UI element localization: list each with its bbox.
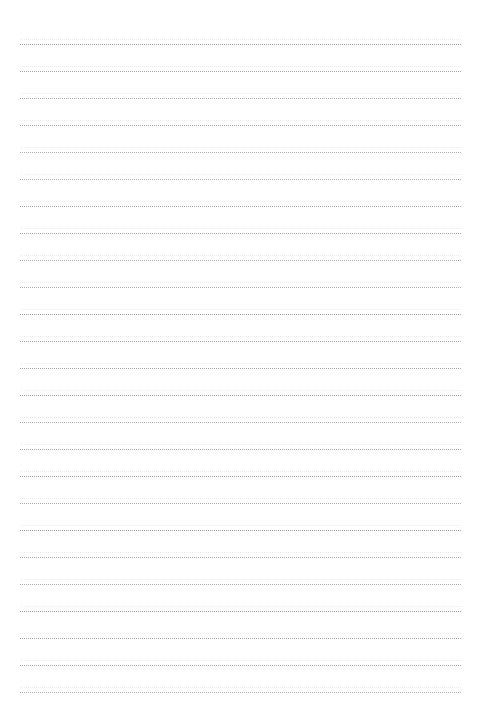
ruled-line-dots [20, 152, 461, 153]
ruled-line-ghost [20, 39, 461, 40]
ruled-line-dots [20, 368, 461, 369]
ruled-line[interactable] [20, 201, 461, 208]
ruled-line[interactable] [20, 579, 461, 586]
ruled-line-dots [20, 611, 461, 612]
ruled-line-dots [20, 638, 461, 639]
ruled-line-ghost [20, 66, 461, 67]
writing-area[interactable] [20, 0, 461, 720]
ruled-line-dots [20, 260, 461, 261]
ruled-line-dots [20, 665, 461, 666]
ruled-line[interactable] [20, 336, 461, 343]
ruled-line[interactable] [20, 471, 461, 478]
ruled-line[interactable] [20, 525, 461, 532]
ruled-line-ghost [20, 255, 461, 256]
ruled-line-ghost [20, 498, 461, 499]
ruled-line-dots [20, 557, 461, 558]
ruled-line[interactable] [20, 174, 461, 181]
ruled-line[interactable] [20, 228, 461, 235]
ruled-line[interactable] [20, 147, 461, 154]
ruled-line[interactable] [20, 282, 461, 289]
ruled-line-ghost [20, 471, 461, 472]
ruled-line-ghost [20, 147, 461, 148]
ruled-line[interactable] [20, 687, 461, 694]
ruled-line-ghost [20, 687, 461, 688]
ruled-line[interactable] [20, 390, 461, 397]
ruled-line[interactable] [20, 66, 461, 73]
ruled-line-ghost [20, 606, 461, 607]
ruled-line-dots [20, 503, 461, 504]
ruled-line[interactable] [20, 633, 461, 640]
ruled-line-ghost [20, 93, 461, 94]
ruled-line-dots [20, 98, 461, 99]
ruled-line-dots [20, 395, 461, 396]
ruled-line-ghost [20, 444, 461, 445]
ruled-line[interactable] [20, 606, 461, 613]
ruled-line[interactable] [20, 120, 461, 127]
ruled-line-dots [20, 341, 461, 342]
ruled-line[interactable] [20, 309, 461, 316]
ruled-line-dots [20, 476, 461, 477]
ruled-line-dots [20, 71, 461, 72]
ruled-line-dots [20, 206, 461, 207]
ruled-line-ghost [20, 660, 461, 661]
ruled-line-ghost [20, 363, 461, 364]
ruled-line-ghost [20, 201, 461, 202]
ruled-line-ghost [20, 228, 461, 229]
ruled-line-dots [20, 449, 461, 450]
ruled-line[interactable] [20, 255, 461, 262]
ruled-line[interactable] [20, 660, 461, 667]
ruled-line-dots [20, 44, 461, 45]
ruled-line[interactable] [20, 93, 461, 100]
ruled-line-ghost [20, 282, 461, 283]
ruled-line-dots [20, 233, 461, 234]
ruled-line-dots [20, 287, 461, 288]
ruled-line-ghost [20, 309, 461, 310]
ruled-line[interactable] [20, 498, 461, 505]
ruled-line-ghost [20, 390, 461, 391]
ruled-line[interactable] [20, 39, 461, 46]
ruled-line-dots [20, 692, 461, 693]
ruled-line-dots [20, 422, 461, 423]
ruled-line[interactable] [20, 417, 461, 424]
ruled-line[interactable] [20, 363, 461, 370]
ruled-line[interactable] [20, 552, 461, 559]
ruled-line-ghost [20, 336, 461, 337]
ruled-line-ghost [20, 174, 461, 175]
ruled-line-dots [20, 125, 461, 126]
ruled-line-dots [20, 314, 461, 315]
ruled-line-dots [20, 530, 461, 531]
ruled-line-ghost [20, 525, 461, 526]
ruled-line-dots [20, 179, 461, 180]
ruled-line-ghost [20, 633, 461, 634]
ruled-line-ghost [20, 552, 461, 553]
ruled-line-ghost [20, 417, 461, 418]
ruled-line-ghost [20, 120, 461, 121]
ruled-line-dots [20, 584, 461, 585]
dotted-ruled-paper-page [0, 0, 480, 720]
ruled-line[interactable] [20, 444, 461, 451]
ruled-line-ghost [20, 579, 461, 580]
